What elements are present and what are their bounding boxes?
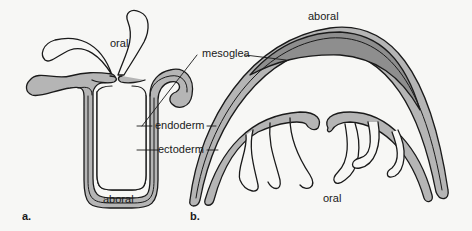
cnidarian-body-plan-figure: oral mesoglea endoderm ectoderm aboral a… — [0, 0, 472, 231]
endoderm-label: endoderm — [155, 120, 205, 131]
panel-label-a: a. — [22, 211, 31, 222]
oral-label-a: oral — [110, 38, 128, 49]
ectoderm-label: ectoderm — [158, 144, 204, 155]
aboral-label-b: aboral — [308, 11, 339, 22]
aboral-label-a: aboral — [103, 194, 134, 205]
oral-label-b: oral — [323, 193, 341, 204]
panel-label-b: b. — [190, 211, 200, 222]
diagram-artwork — [0, 0, 472, 231]
mesoglea-label: mesoglea — [202, 48, 250, 59]
